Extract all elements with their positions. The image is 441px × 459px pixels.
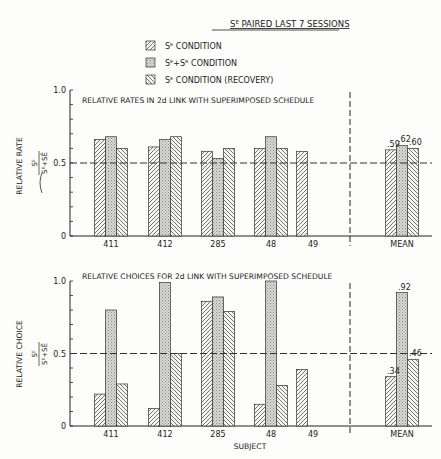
chart-rates-bar-sesr-MEAN <box>397 145 408 236</box>
chart-choices-bar-se-411 <box>95 394 106 426</box>
chart-rates-bar-sesr-411 <box>106 137 117 236</box>
chart-choices-bar-se-285 <box>202 301 213 426</box>
chart-rates-bar-se-412 <box>149 147 160 236</box>
chart-choices-ylabel: RELATIVE CHOICE <box>15 320 24 388</box>
legend-swatch-rec <box>146 75 155 84</box>
chart-rates-x-tick-label: 411 <box>103 240 118 249</box>
chart-rates-bar-se-285 <box>202 151 213 236</box>
chart-rates-ylabel: RELATIVE RATE <box>15 137 24 195</box>
chart-choices-bar-se-48 <box>255 404 266 426</box>
chart-rates-yformula-paren-left <box>40 173 42 193</box>
chart-rates-bar-se-49 <box>297 151 308 236</box>
chart-rates-mean-label-rec: .60 <box>409 138 422 147</box>
chart-choices-mean-label-se: .34 <box>387 367 400 376</box>
chart-rates-bar-rec-412 <box>171 137 182 236</box>
chart-choices-y-tick-label: 1.0 <box>53 277 66 286</box>
chart-choices-bar-sesr-411 <box>106 310 117 426</box>
chart-choices-xlabel: SUBJECT <box>234 442 267 451</box>
legend-swatch-se <box>146 41 155 50</box>
chart-choices-title: RELATIVE CHOICES FOR 2d LINK WITH SUPERI… <box>82 272 333 281</box>
chart-rates-bar-rec-285 <box>224 148 235 236</box>
legend-label-se: Sᴱ CONDITION <box>165 42 222 51</box>
chart-rates-bar-se-48 <box>255 148 266 236</box>
chart-choices-bar-rec-MEAN <box>408 359 419 426</box>
chart-choices-yformula-den: Sᴱ+SĒ <box>40 343 49 365</box>
chart-rates-bar-rec-MEAN <box>408 148 419 236</box>
chart-rates-bar-rec-411 <box>117 148 128 236</box>
chart-choices-y-tick-label: 0 <box>61 422 66 431</box>
chart-choices-x-tick-label: MEAN <box>390 430 413 439</box>
chart-choices-x-tick-label: 411 <box>103 430 118 439</box>
chart-choices-mean-label-sesr: .92 <box>398 283 411 292</box>
chart-rates-bar-se-411 <box>95 140 106 236</box>
chart-choices-bar-rec-48 <box>277 385 288 426</box>
legend: Sᴱ CONDITION Sᴱ+Sᴿ CONDITION Sᴱ CONDITIO… <box>146 41 273 85</box>
chart-choices-bar-sesr-MEAN <box>397 293 408 426</box>
chart-rates-yformula: Sᴱ Sᴱ+SĒ <box>31 151 49 193</box>
chart-rates-yformula-den: Sᴱ+SĒ <box>40 152 49 174</box>
legend-label-sesr: Sᴱ+Sᴿ CONDITION <box>165 59 237 68</box>
chart-choices-yformula: Sᴱ Sᴱ+SĒ <box>31 342 49 366</box>
chart-choices-x-tick-label: 49 <box>308 430 318 439</box>
chart-choices-bar-sesr-412 <box>160 282 171 426</box>
chart-choices-x-tick-label: 48 <box>266 430 276 439</box>
chart-rates-x-tick-label: 412 <box>157 240 172 249</box>
legend-swatch-sesr <box>146 58 155 67</box>
chart-rates-y-tick-label: 0.5 <box>53 159 66 168</box>
chart-rates-x-tick-label: 48 <box>266 240 276 249</box>
chart-choices-x-tick-label: 285 <box>210 430 225 439</box>
chart-choices-bar-rec-412 <box>171 354 182 427</box>
chart-choices-bar-sesr-285 <box>213 297 224 426</box>
chart-rates-bar-rec-48 <box>277 148 288 236</box>
chart-choices-bar-rec-411 <box>117 384 128 426</box>
chart-rates-bar-sesr-285 <box>213 159 224 236</box>
chart-rates-title: RELATIVE RATES IN 2d LINK WITH SUPERIMPO… <box>82 96 315 105</box>
chart-choices-yformula-num: Sᴱ <box>31 350 39 357</box>
chart-choices-y-tick-label: 0.5 <box>53 350 66 359</box>
figure-title: Sᴱ PAIRED LAST 7 SESSIONS <box>230 19 350 29</box>
chart-choices-x-tick-label: 412 <box>157 430 172 439</box>
chart-rates-yformula-num: Sᴱ <box>31 159 39 166</box>
chart-rates-bar-sesr-412 <box>160 140 171 236</box>
chart-choices-bar-se-49 <box>297 369 308 426</box>
chart-rates-x-tick-label: 49 <box>308 240 318 249</box>
chart-rates-x-tick-label: 285 <box>210 240 225 249</box>
chart-choices-bar-rec-285 <box>224 311 235 426</box>
chart-choices-bar-se-412 <box>149 409 160 426</box>
chart-choices-bar-se-MEAN <box>386 377 397 426</box>
chart-rates-y-tick-label: 1.0 <box>53 86 66 95</box>
figure: Sᴱ PAIRED LAST 7 SESSIONS Sᴱ CONDITION S… <box>0 0 441 459</box>
chart-rates-bar-sesr-48 <box>266 137 277 236</box>
chart-choices-mean-label-rec: .46 <box>409 349 422 358</box>
legend-label-rec: Sᴱ CONDITION (RECOVERY) <box>165 76 273 85</box>
chart-rates-x-tick-label: MEAN <box>390 240 413 249</box>
chart-rates-y-tick-label: 0 <box>61 232 66 241</box>
